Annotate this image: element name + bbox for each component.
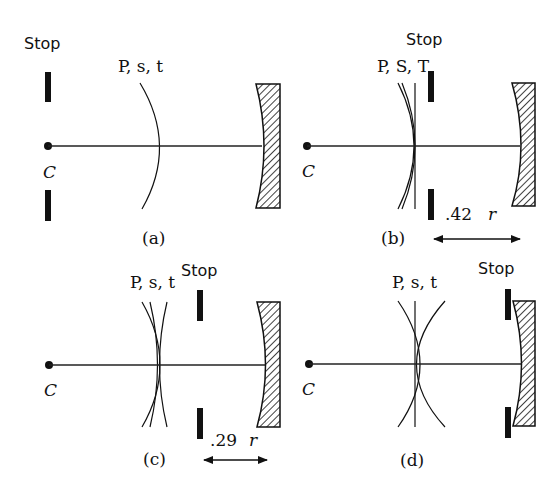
optics-diagram: Stop P, s, t C (a) Stop P, S, T C .42 r … [0, 0, 560, 493]
surfaces-label: P, s, t [118, 56, 163, 76]
surfaces-label: P, s, t [392, 272, 437, 292]
stop-bottom [197, 408, 203, 439]
panel-caption: (b) [381, 228, 405, 248]
stop-bottom [505, 407, 511, 438]
panel-c: Stop P, s, t C .29 r (c) [44, 261, 280, 469]
stop-bottom [45, 190, 51, 221]
distance-unit: r [488, 204, 497, 224]
stop-top [45, 72, 51, 102]
center-label: C [302, 161, 315, 181]
surfaces-label: P, S, T [377, 56, 430, 76]
stop-top [505, 289, 511, 320]
center-label: C [44, 380, 57, 400]
stop-label: Stop [181, 261, 217, 280]
distance-value: .42 [445, 204, 472, 224]
stop-label: Stop [478, 259, 514, 278]
panel-b: Stop P, S, T C .42 r (b) [302, 30, 535, 248]
panel-caption: (d) [400, 450, 424, 470]
stop-bottom [428, 189, 434, 220]
stop-top [197, 290, 203, 321]
panel-caption: (a) [142, 228, 165, 248]
panel-d: Stop P, s, t C (d) [302, 259, 535, 470]
mirror [512, 83, 535, 206]
surfaces-label: P, s, t [130, 272, 175, 292]
stop-label: Stop [406, 30, 442, 49]
stop-top [428, 71, 434, 102]
center-label: C [302, 379, 315, 399]
panel-caption: (c) [143, 449, 166, 469]
panel-a: Stop P, s, t C (a) [24, 34, 280, 248]
distance-unit: r [249, 430, 258, 450]
distance-value: .29 [210, 430, 237, 450]
stop-label: Stop [24, 34, 60, 53]
center-label: C [43, 162, 56, 182]
